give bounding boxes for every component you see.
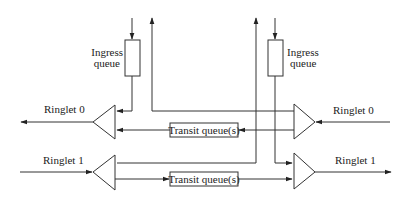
- ingress-queue-left: Ingress queue: [91, 18, 140, 111]
- ringlet0-left-label: Ringlet 0: [44, 103, 85, 115]
- ringlet1-left-label: Ringlet 1: [43, 154, 84, 166]
- ringlet1-out-mux-triangle: [294, 153, 315, 189]
- ingress-right-to-mux-line: [275, 76, 292, 163]
- ringlet0-out-mux-triangle: [93, 105, 115, 139]
- ingress-queue-right: Ingress queue: [268, 18, 319, 163]
- ingress-right-label-line2: queue: [290, 57, 316, 69]
- ingress-left-label-line2: queue: [94, 57, 120, 69]
- ringlet0-in-demux-triangle: [294, 104, 315, 139]
- transit-queue-ringlet0-label: Transit queue(s): [168, 124, 240, 137]
- rpr-node-diagram: Ingress queue Ingress queue Ringlet 0 Tr…: [0, 0, 412, 211]
- ringlet1-right-label: Ringlet 1: [335, 154, 376, 166]
- ringlet1-in-demux-triangle: [93, 155, 115, 190]
- ingress-queue-left-box: [125, 40, 140, 76]
- ringlet0-right-label: Ringlet 0: [333, 104, 374, 116]
- transit-queue-ringlet1-label: Transit queue(s): [168, 173, 240, 186]
- ingress-left-to-mux-line: [117, 76, 132, 111]
- ingress-queue-right-box: [268, 40, 283, 76]
